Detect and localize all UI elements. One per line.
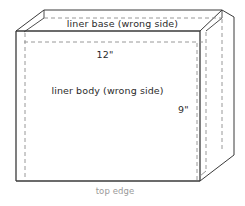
label-width-dimension: 12": [0, 49, 210, 60]
diagram-canvas: liner base (wrong side) 12" liner body (…: [0, 0, 245, 206]
label-height-dimension: 9": [178, 104, 189, 115]
side-flap-top-edge: [222, 10, 234, 17]
label-liner-base: liner base (wrong side): [0, 18, 245, 29]
side-flap-bottom-edge: [200, 155, 234, 181]
label-liner-body: liner body (wrong side): [0, 85, 215, 96]
label-top-edge: top edge: [0, 186, 230, 196]
liner-box-illustration: [0, 0, 245, 206]
side-flap-bottom-fold: [200, 171, 206, 176]
